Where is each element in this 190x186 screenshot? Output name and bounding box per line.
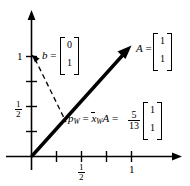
a-bracket-left (153, 33, 158, 71)
vector-projection-figure: 1 1 2 1 2 1 b = 0 1 A = 1 1 pW (0, 0, 190, 186)
xbar-symbol: x (91, 113, 96, 124)
a-label-text: A = (136, 43, 152, 54)
projection-bracket-left (143, 102, 148, 140)
a-vector-matrix: 1 1 (153, 33, 172, 71)
vector-a-arrow (32, 46, 132, 157)
projection-a-symbol: A (103, 112, 110, 124)
x-tick-label-half: 1 2 (78, 163, 85, 182)
a-equals-sign: = (145, 42, 151, 54)
y-axis (26, 10, 37, 170)
b-symbol: b (42, 49, 48, 61)
x-tick-label-one: 1 (129, 164, 135, 175)
y-tick-label-half: 1 2 (15, 100, 22, 119)
x-half-denominator: 2 (78, 172, 85, 182)
y-half-numerator: 1 (15, 100, 22, 109)
projection-bracket-right (157, 102, 162, 140)
b-bracket-left (60, 37, 65, 75)
a-bracket-right (167, 33, 172, 71)
projection-label-text: pW = xWA = (68, 113, 118, 125)
scalar-numerator: 5 (128, 110, 140, 120)
projection-equals-1: = (83, 112, 89, 124)
projection-scalar-fraction: 5 13 (128, 110, 140, 131)
y-half-denominator: 2 (15, 109, 22, 119)
b-vector-matrix: 0 1 (60, 37, 79, 75)
b-bracket-right (74, 37, 79, 75)
projection-equals-2: = (112, 112, 118, 124)
p-subscript: W (74, 117, 80, 126)
projection-vector-matrix: 1 1 (143, 102, 162, 140)
scalar-denominator: 13 (128, 120, 140, 131)
x-half-numerator: 1 (78, 163, 85, 172)
y-tick-label-one: 1 (17, 51, 23, 62)
b-equals-sign: = (50, 49, 56, 61)
b-label-text: b = (42, 50, 56, 61)
a-symbol: A (136, 42, 143, 54)
figure-canvas (0, 0, 190, 186)
